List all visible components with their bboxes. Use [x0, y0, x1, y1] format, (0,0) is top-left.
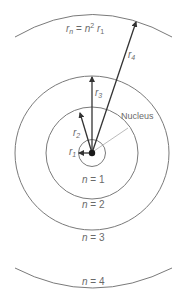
label-r4: r4 — [128, 49, 135, 61]
nucleus-dot — [89, 150, 95, 156]
label-r1: r1 — [69, 146, 76, 158]
label-n4: n = 4 — [82, 276, 105, 287]
label-r2: r2 — [73, 127, 80, 139]
radius-arrow-r2 — [80, 113, 92, 153]
label-n1: n = 1 — [82, 174, 105, 185]
label-r3: r3 — [95, 87, 102, 99]
formula-label: rn = n2 r1 — [66, 22, 104, 35]
label-n2: n = 2 — [82, 199, 105, 210]
label-n3: n = 3 — [82, 232, 105, 243]
radius-arrow-r4 — [92, 22, 136, 153]
bohr-orbits-diagram: rn = n2 r1 r4 r3 r2 r1 Nucleus n = 1 n =… — [0, 0, 186, 306]
nucleus-label: Nucleus — [121, 111, 154, 121]
